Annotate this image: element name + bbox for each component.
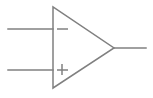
opamp-schematic-svg — [0, 0, 153, 98]
schematic-canvas — [0, 0, 153, 98]
opamp-triangle-body — [53, 7, 114, 88]
